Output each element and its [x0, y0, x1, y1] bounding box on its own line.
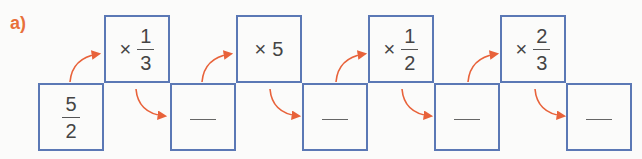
arrow-up-icon: [468, 54, 496, 82]
arrow-down-icon: [136, 89, 164, 116]
arrow-up-icon: [70, 54, 98, 82]
arrow-up-icon: [336, 54, 364, 82]
flow-arrows: [0, 0, 642, 159]
arrow-down-icon: [535, 89, 563, 116]
arrow-down-icon: [270, 89, 298, 116]
arrow-down-icon: [402, 89, 430, 116]
arrow-up-icon: [202, 54, 230, 82]
